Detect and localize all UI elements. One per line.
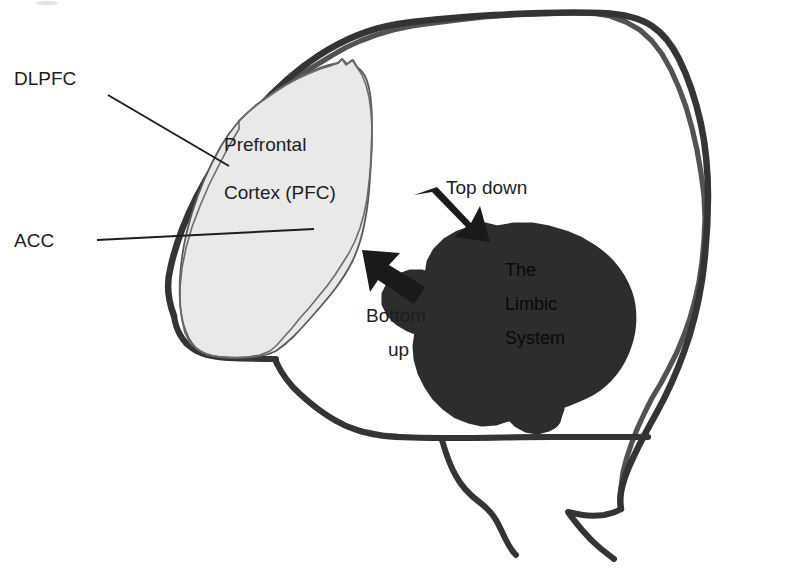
pfc-label-line2: Cortex (PFC) xyxy=(224,182,336,203)
cerebellum-right-path xyxy=(568,509,621,559)
diagram-canvas: DLPFC ACC Prefrontal Cortex (PFC) Top do… xyxy=(0,0,805,574)
limbic-label-line2: Limbic xyxy=(505,294,557,314)
brain-diagram-svg: DLPFC ACC Prefrontal Cortex (PFC) Top do… xyxy=(0,0,805,574)
brainstem-left-path xyxy=(442,440,516,555)
dlpfc-leader-line xyxy=(108,95,229,166)
limbic-label-line1: The xyxy=(505,260,536,280)
pfc-label-line1: Prefrontal xyxy=(224,134,306,155)
bottom-up-label-line2: up xyxy=(388,339,409,360)
limbic-label-line3: System xyxy=(505,328,565,348)
dlpfc-label: DLPFC xyxy=(14,68,76,89)
bottom-up-label-line1: Bottom xyxy=(366,305,426,326)
top-down-label: Top down xyxy=(446,177,527,198)
acc-label: ACC xyxy=(14,230,54,251)
scan-artifact-speck xyxy=(36,1,58,5)
prefrontal-cortex-region xyxy=(180,59,372,358)
